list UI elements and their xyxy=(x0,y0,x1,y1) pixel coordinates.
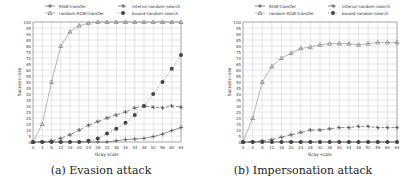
svg-text:56: 56 xyxy=(160,145,166,150)
svg-text:15: 15 xyxy=(236,122,242,127)
svg-text:30: 30 xyxy=(26,104,32,109)
svg-text:90: 90 xyxy=(26,32,32,37)
svg-text:95: 95 xyxy=(26,26,32,31)
svg-text:36: 36 xyxy=(327,145,333,150)
svg-text:55: 55 xyxy=(26,74,32,79)
svg-text:20: 20 xyxy=(236,116,242,121)
svg-text:50: 50 xyxy=(236,80,242,85)
svg-text:44: 44 xyxy=(346,145,352,150)
svg-text:70: 70 xyxy=(236,56,242,61)
svg-text:interior-random-search: interior-random-search xyxy=(342,4,390,9)
svg-text:70: 70 xyxy=(26,56,32,61)
svg-text:10: 10 xyxy=(26,128,32,133)
svg-text:80: 80 xyxy=(26,44,32,49)
svg-text:bound-random-search: bound-random-search xyxy=(132,11,179,16)
svg-text:64: 64 xyxy=(178,145,184,150)
panel-evasion: 0481216202428323640444852566064051015202… xyxy=(0,0,202,190)
svg-text:65: 65 xyxy=(26,62,32,67)
svg-text:8: 8 xyxy=(261,145,264,150)
svg-text:44: 44 xyxy=(132,145,138,150)
svg-text:25: 25 xyxy=(236,110,242,115)
caption-evasion: (a) Evasion attack xyxy=(0,164,202,177)
svg-text:0: 0 xyxy=(32,145,35,150)
svg-text:60: 60 xyxy=(385,145,391,150)
svg-text:16: 16 xyxy=(279,145,285,150)
svg-text:Gray scale: Gray scale xyxy=(95,152,119,157)
svg-text:16: 16 xyxy=(67,145,73,150)
svg-text:40: 40 xyxy=(26,92,32,97)
svg-text:30: 30 xyxy=(236,104,242,109)
svg-text:28: 28 xyxy=(95,145,101,150)
svg-text:75: 75 xyxy=(236,50,242,55)
svg-text:100: 100 xyxy=(23,20,31,25)
svg-text:36: 36 xyxy=(114,145,120,150)
svg-text:48: 48 xyxy=(356,145,362,150)
svg-text:64: 64 xyxy=(394,145,400,150)
svg-text:85: 85 xyxy=(236,38,242,43)
svg-text:Success rate: Success rate xyxy=(227,67,232,96)
svg-text:52: 52 xyxy=(151,145,157,150)
svg-text:48: 48 xyxy=(141,145,147,150)
svg-text:40: 40 xyxy=(123,145,129,150)
svg-text:Gray scale: Gray scale xyxy=(308,152,332,157)
svg-text:20: 20 xyxy=(26,116,32,121)
svg-text:5: 5 xyxy=(238,134,241,139)
svg-text:85: 85 xyxy=(26,38,32,43)
svg-text:50: 50 xyxy=(26,80,32,85)
svg-text:65: 65 xyxy=(236,62,242,67)
svg-text:60: 60 xyxy=(26,68,32,73)
caption-impersonation: (b) Impersonation attack xyxy=(202,164,404,177)
svg-text:8: 8 xyxy=(50,145,53,150)
svg-text:12: 12 xyxy=(269,145,275,150)
impersonation-chart: 0481216202428323640444852566064051015202… xyxy=(202,0,404,190)
svg-text:56: 56 xyxy=(375,145,381,150)
svg-text:bound-random-search: bound-random-search xyxy=(342,11,389,16)
svg-text:random-RGB-transfer: random-RGB-transfer xyxy=(59,11,104,16)
evasion-chart: 0481216202428323640444852566064051015202… xyxy=(0,0,202,190)
svg-text:4: 4 xyxy=(251,145,254,150)
svg-text:4: 4 xyxy=(41,145,44,150)
svg-text:75: 75 xyxy=(26,50,32,55)
svg-text:35: 35 xyxy=(26,98,32,103)
svg-text:28: 28 xyxy=(308,145,314,150)
svg-text:52: 52 xyxy=(366,145,372,150)
svg-text:24: 24 xyxy=(298,145,304,150)
svg-text:Success rate: Success rate xyxy=(17,67,22,96)
svg-text:interior-random-search: interior-random-search xyxy=(132,4,180,9)
svg-text:35: 35 xyxy=(236,98,242,103)
panel-impersonation: 0481216202428323640444852566064051015202… xyxy=(202,0,404,190)
svg-text:100: 100 xyxy=(233,20,241,25)
svg-text:80: 80 xyxy=(236,44,242,49)
svg-text:RGB-transfer: RGB-transfer xyxy=(269,4,296,9)
svg-text:55: 55 xyxy=(236,74,242,79)
svg-text:60: 60 xyxy=(236,68,242,73)
svg-text:95: 95 xyxy=(236,26,242,31)
svg-text:0: 0 xyxy=(242,145,245,150)
svg-text:random-RGB-transfer: random-RGB-transfer xyxy=(269,11,314,16)
svg-text:25: 25 xyxy=(26,110,32,115)
svg-text:RGB-transfer: RGB-transfer xyxy=(59,4,86,9)
svg-text:40: 40 xyxy=(236,92,242,97)
svg-text:60: 60 xyxy=(169,145,175,150)
svg-text:24: 24 xyxy=(86,145,92,150)
svg-text:45: 45 xyxy=(26,86,32,91)
svg-text:40: 40 xyxy=(337,145,343,150)
svg-text:32: 32 xyxy=(104,145,110,150)
svg-text:5: 5 xyxy=(28,134,31,139)
svg-text:20: 20 xyxy=(77,145,83,150)
svg-text:10: 10 xyxy=(236,128,242,133)
svg-text:90: 90 xyxy=(236,32,242,37)
svg-text:15: 15 xyxy=(26,122,32,127)
svg-text:32: 32 xyxy=(317,145,323,150)
svg-text:12: 12 xyxy=(58,145,64,150)
svg-text:20: 20 xyxy=(289,145,295,150)
svg-text:45: 45 xyxy=(236,86,242,91)
